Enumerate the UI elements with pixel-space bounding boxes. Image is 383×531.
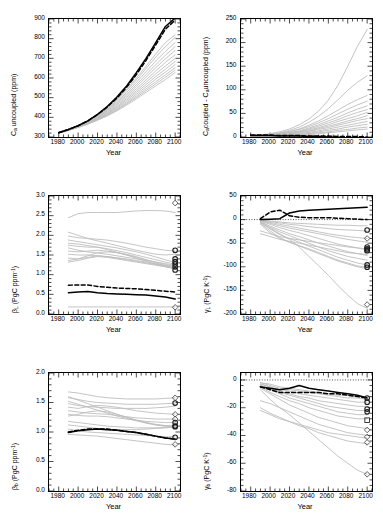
- y-axis-label: βb (PgC ppm-1): [10, 443, 20, 490]
- x-axis-label: Year: [240, 149, 371, 157]
- y-axis-tick-label: -40: [206, 431, 237, 438]
- y-axis-tick-label: 1.5: [14, 251, 45, 258]
- figure-panel-grid: 3004005006007008009001980200020202040206…: [0, 0, 383, 531]
- chart-panel-e: 0.00.51.01.52.01980200020202040206020802…: [0, 354, 192, 531]
- chart-panel-d: 500-50-100-150-2001980200020202040206020…: [192, 177, 383, 354]
- plot-area-a: [48, 18, 181, 138]
- plot-area-f: [240, 372, 373, 492]
- y-axis-tick-label: 2.0: [14, 369, 45, 376]
- x-axis-tick-label: 2100: [353, 139, 379, 146]
- x-axis-tick-label: 2100: [161, 316, 187, 323]
- y-axis-tick-label: 250: [206, 15, 237, 22]
- x-axis-label: Year: [240, 503, 371, 511]
- y-axis-tick-label: 1.5: [14, 398, 45, 405]
- y-axis-tick-label: -100: [206, 262, 237, 269]
- y-axis-tick-label: 50: [206, 192, 237, 199]
- y-axis-tick-label: 0: [206, 215, 237, 222]
- y-axis-tick-label: 800: [14, 34, 45, 41]
- x-axis-label: Year: [48, 149, 179, 157]
- y-axis-label: γL (PgC K-1): [202, 275, 212, 313]
- y-axis-label: Ca uncoupled (ppm): [10, 74, 19, 136]
- y-axis-tick-label: -50: [206, 239, 237, 246]
- y-axis-tick-label: -20: [206, 403, 237, 410]
- y-axis-tick-label: 2.5: [14, 211, 45, 218]
- x-axis-label: Year: [48, 326, 179, 334]
- chart-panel-a: 3004005006007008009001980200020202040206…: [0, 0, 192, 177]
- y-axis-label: βL (PgC ppm-1): [10, 266, 20, 313]
- plot-area-b: [240, 18, 373, 138]
- chart-panel-f: 0-20-40-60-80198020002020204020602080210…: [192, 354, 383, 531]
- plot-area-e: [48, 372, 181, 492]
- x-axis-label: Year: [240, 326, 371, 334]
- x-axis-label: Year: [48, 503, 179, 511]
- x-axis-tick-label: 2100: [161, 139, 187, 146]
- x-axis-tick-label: 2100: [353, 316, 379, 323]
- y-axis-tick-label: 0: [206, 376, 237, 383]
- x-axis-tick-label: 2100: [353, 493, 379, 500]
- y-axis-label: γb (PgC K-1): [202, 452, 212, 490]
- y-axis-tick-label: 900: [14, 15, 45, 22]
- y-axis-tick-label: 700: [14, 54, 45, 61]
- y-axis-tick-label: 1.0: [14, 428, 45, 435]
- chart-panel-b: 0501001502002501980200020202040206020802…: [192, 0, 383, 177]
- y-axis-tick-label: 2.0: [14, 231, 45, 238]
- y-axis-label: Cacoupled - Cauncoupled (ppm): [202, 37, 211, 136]
- y-axis-tick-label: 3.0: [14, 192, 45, 199]
- plot-area-d: [240, 195, 373, 315]
- plot-area-c: [48, 195, 181, 315]
- x-axis-tick-label: 2100: [161, 493, 187, 500]
- chart-panel-c: 0.00.51.01.52.02.53.01980200020202040206…: [0, 177, 192, 354]
